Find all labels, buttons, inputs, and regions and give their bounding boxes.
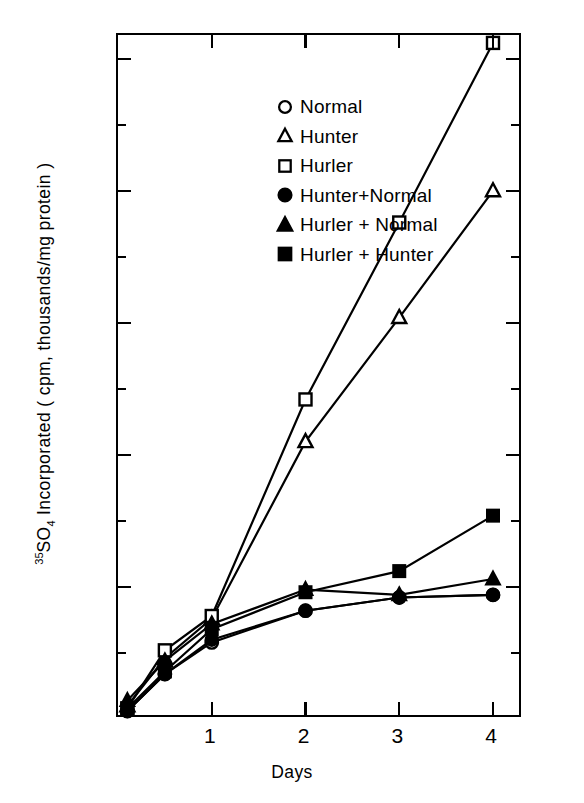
marker-open-square: [279, 160, 290, 171]
legend-open-square-icon: [270, 155, 300, 177]
legend-item-label: Normal: [300, 97, 362, 116]
x-tick-label: 3: [377, 724, 417, 748]
marker-filled-square: [121, 702, 133, 714]
marker-filled-square: [393, 565, 405, 577]
marker-open-triangle: [486, 183, 500, 196]
legend-open-triangle-icon: [270, 125, 300, 147]
y-tick-minor: [118, 652, 126, 654]
y-tick-minor-right: [511, 520, 519, 522]
y-tick-major: [118, 454, 131, 456]
marker-open-triangle: [278, 129, 291, 141]
y-tick-major: [118, 190, 131, 192]
y-axis-title-rest: Incorporated ( cpm, thousands/mg protein…: [34, 163, 54, 521]
y-tick-minor: [118, 520, 126, 522]
marker-filled-square: [159, 665, 171, 677]
y-tick-minor-right: [511, 124, 519, 126]
y-axis-title-subscript: 4: [45, 520, 57, 526]
x-tick-major: [398, 702, 400, 715]
marker-filled-triangle: [486, 571, 500, 584]
legend-item-hurler[interactable]: Hurler: [270, 151, 438, 181]
legend-item-label: Hurler + Hunter: [300, 245, 433, 264]
x-tick-major: [304, 702, 306, 715]
y-tick-major-right: [506, 322, 519, 324]
x-tick-label: 1: [190, 724, 230, 748]
legend-item-hurler-hunter[interactable]: Hurler + Hunter: [270, 240, 438, 270]
marker-filled-circle: [278, 189, 291, 202]
x-tick-label: 2: [284, 724, 324, 748]
y-tick-minor: [118, 388, 126, 390]
y-tick-minor: [118, 256, 126, 258]
y-tick-major-right: [506, 58, 519, 60]
x-tick-major: [492, 702, 494, 715]
legend-filled-square-icon: [270, 243, 300, 265]
x-tick-major-top: [304, 35, 306, 48]
y-tick-major-right: [506, 190, 519, 192]
legend-item-label: Hunter+Normal: [300, 186, 432, 205]
legend-item-label: Hurler + Normal: [300, 215, 438, 234]
x-tick-major: [211, 702, 213, 715]
marker-open-circle: [279, 101, 291, 113]
y-tick-minor-right: [511, 652, 519, 654]
y-axis-title-superscript: 35: [33, 552, 45, 564]
x-tick-major-top: [211, 35, 213, 48]
legend-filled-circle-icon: [270, 184, 300, 206]
marker-filled-circle: [487, 589, 499, 601]
legend-item-label: Hurler: [300, 156, 353, 175]
marker-filled-triangle: [278, 217, 293, 231]
legend-open-circle-icon: [270, 96, 300, 118]
plot-area: NormalHunterHurlerHunter+NormalHurler + …: [116, 33, 521, 717]
y-tick-minor-right: [511, 388, 519, 390]
x-tick-label: 4: [471, 724, 511, 748]
x-tick-major-top: [492, 35, 494, 48]
legend-item-normal[interactable]: Normal: [270, 92, 438, 122]
series-markers-hunter-normal: [121, 589, 499, 718]
legend-item-label: Hunter: [300, 127, 358, 146]
marker-filled-square: [206, 623, 218, 635]
y-tick-major: [118, 58, 131, 60]
marker-filled-square: [487, 510, 499, 522]
legend-item-hurler-normal[interactable]: Hurler + Normal: [270, 210, 438, 240]
chart-legend: NormalHunterHurlerHunter+NormalHurler + …: [270, 92, 438, 269]
chart-figure: 35SO4 Incorporated ( cpm, thousands/mg p…: [0, 0, 584, 803]
y-tick-major: [118, 586, 131, 588]
marker-open-square: [300, 393, 312, 405]
y-axis-title: 35SO4 Incorporated ( cpm, thousands/mg p…: [33, 14, 56, 714]
marker-filled-square: [300, 586, 312, 598]
legend-item-hunter-normal[interactable]: Hunter+Normal: [270, 181, 438, 211]
y-tick-minor-right: [511, 256, 519, 258]
legend-filled-triangle-icon: [270, 214, 300, 236]
y-axis-title-species: SO: [34, 526, 54, 552]
y-tick-major-right: [506, 454, 519, 456]
legend-item-hunter[interactable]: Hunter: [270, 122, 438, 152]
marker-filled-circle: [299, 605, 311, 617]
marker-filled-square: [279, 248, 292, 261]
x-axis-title: Days: [0, 762, 584, 783]
y-tick-major: [118, 322, 131, 324]
y-tick-major-right: [506, 586, 519, 588]
y-tick-minor: [118, 124, 126, 126]
x-tick-major-top: [398, 35, 400, 48]
